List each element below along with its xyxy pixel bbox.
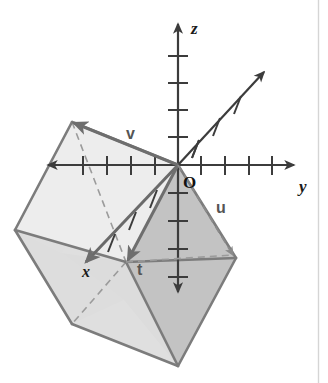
z-axis-label: z (190, 19, 198, 38)
vector-t-label: t (137, 261, 143, 278)
solid-faces (15, 122, 236, 366)
vector-u-label: u (216, 199, 226, 216)
figure-container: z y x O v t u (0, 0, 328, 383)
y-axis-label: y (297, 177, 307, 196)
x-axis-line-negative (178, 72, 264, 165)
vector-v-label: v (126, 125, 135, 142)
x-axis-label: x (81, 263, 90, 280)
origin-label: O (183, 173, 196, 192)
coordinate-axes-figure: z y x O v t u (0, 0, 328, 383)
